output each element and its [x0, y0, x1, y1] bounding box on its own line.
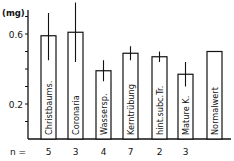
bar-category-label: Christbaums. — [44, 81, 54, 135]
n-value: 3 — [73, 147, 79, 157]
bar-chart: 0.60.2(mg)Christbaums.5Coronaria3Wassers… — [0, 0, 234, 161]
bar-category-label: Wassersp. — [99, 93, 109, 135]
bar-category-label: Normalwert — [210, 86, 220, 135]
n-value: 2 — [157, 147, 163, 157]
n-label: n = — [10, 147, 26, 157]
bar-category-label: hint.subc.Tr. — [155, 86, 165, 135]
n-value: 7 — [128, 147, 134, 157]
y-tick-label: 0.2 — [9, 100, 23, 110]
bar-category-label: Mature K. — [181, 96, 191, 135]
n-value: 4 — [101, 147, 107, 157]
n-value: 5 — [46, 147, 52, 157]
bar-category-label: Coronaria — [71, 95, 81, 135]
n-value: 3 — [183, 147, 189, 157]
y-axis-label: (mg) — [2, 8, 25, 18]
y-tick-label: 0.6 — [9, 30, 24, 40]
bar-category-label: Kerntrübung — [126, 84, 136, 135]
